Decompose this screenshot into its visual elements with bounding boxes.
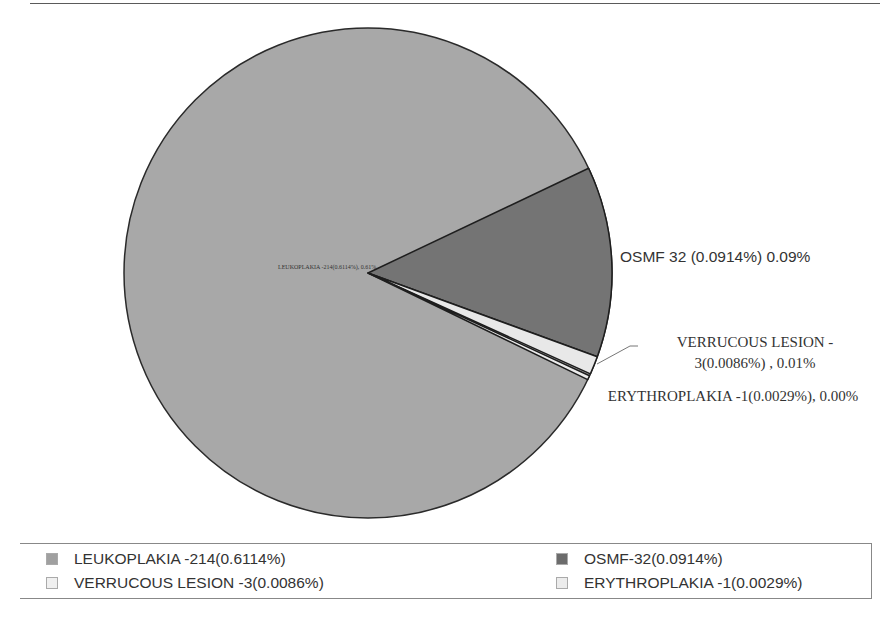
chart-legend: LEUKOPLAKIA -214(0.6114%) OSMF-32(0.0914… bbox=[20, 543, 872, 599]
legend-label: ERYTHROPLAKIA -1(0.0029%) bbox=[584, 574, 803, 592]
erythroplakia-data-label: ERYTHROPLAKIA -1(0.0029%), 0.00% bbox=[598, 386, 868, 406]
legend-swatch-icon bbox=[556, 577, 568, 589]
legend-item-erythroplakia: ERYTHROPLAKIA -1(0.0029%) bbox=[556, 574, 803, 592]
verrucous-leader-line bbox=[597, 346, 638, 364]
legend-label: OSMF-32(0.0914%) bbox=[584, 550, 723, 568]
legend-swatch-icon bbox=[556, 553, 568, 565]
legend-item-leukoplakia: LEUKOPLAKIA -214(0.6114%) bbox=[46, 550, 286, 568]
legend-label: LEUKOPLAKIA -214(0.6114%) bbox=[74, 550, 286, 568]
legend-label: VERRUCOUS LESION -3(0.0086%) bbox=[74, 574, 324, 592]
legend-swatch-icon bbox=[46, 553, 58, 565]
pie-slices bbox=[124, 28, 612, 518]
pie-chart bbox=[0, 0, 895, 620]
legend-swatch-icon bbox=[46, 577, 58, 589]
leukoplakia-data-label: LEUKOPLAKIA -214(0.6114%), 0.61% bbox=[278, 264, 376, 270]
legend-item-verrucous: VERRUCOUS LESION -3(0.0086%) bbox=[46, 574, 324, 592]
verrucous-data-label: VERRUCOUS LESION - 3(0.0086%) , 0.01% bbox=[640, 332, 870, 374]
osmf-data-label: OSMF 32 (0.0914%) 0.09% bbox=[620, 248, 810, 266]
legend-item-osmf: OSMF-32(0.0914%) bbox=[556, 550, 723, 568]
